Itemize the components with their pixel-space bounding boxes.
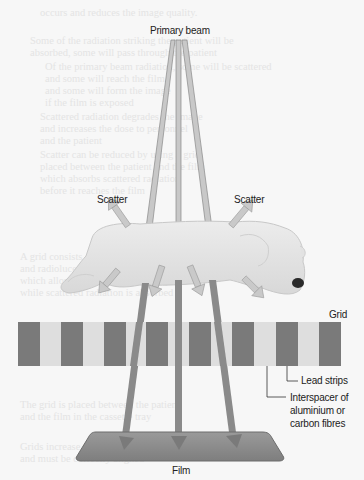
interspacer-line-3: carbon fibres <box>290 417 348 430</box>
scatter-left-label: Scatter <box>97 194 127 205</box>
lead-strip <box>189 322 211 366</box>
scatter-right-label: Scatter <box>234 194 264 205</box>
primary-beam <box>146 40 212 228</box>
interspacer-label: Interspacer of aluminium or carbon fibre… <box>290 391 348 430</box>
lead-strip <box>18 322 40 366</box>
lead-strip <box>146 322 168 366</box>
lead-strips-label: Lead strips <box>301 375 348 386</box>
lead-strip <box>276 322 298 366</box>
lead-strip <box>61 322 83 366</box>
lead-strip <box>104 322 126 366</box>
interspacer-line-2: aluminium or <box>290 404 348 417</box>
dog-illustration <box>61 221 305 294</box>
grid-label: Grid <box>329 309 347 320</box>
primary-beam-label: Primary beam <box>150 25 210 36</box>
interspacer-line-1: Interspacer of <box>290 391 348 404</box>
lead-strip <box>319 322 341 366</box>
film-label: Film <box>172 465 190 476</box>
lead-strip <box>232 322 254 366</box>
